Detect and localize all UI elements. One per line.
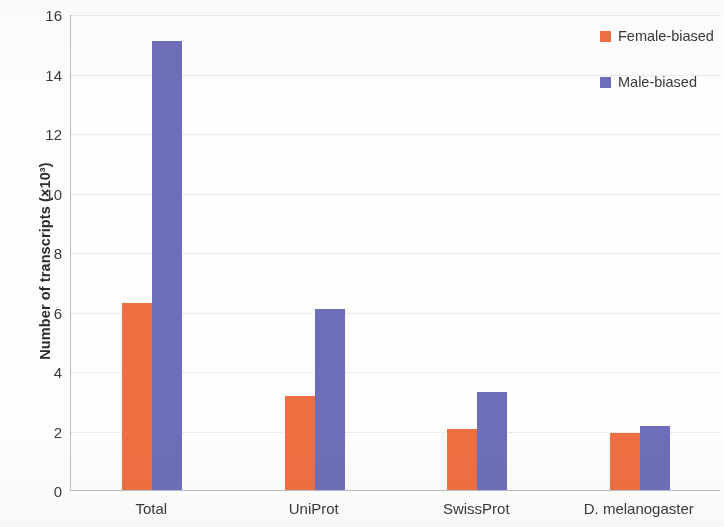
- y-tick-label: 6: [18, 304, 62, 321]
- bar: [315, 309, 345, 490]
- y-tick-label: 14: [18, 66, 62, 83]
- y-tick-label: 16: [18, 7, 62, 24]
- bar: [640, 426, 670, 490]
- legend-item: Male-biased: [600, 74, 724, 90]
- y-tick-label: 10: [18, 185, 62, 202]
- y-tick-label: 4: [18, 364, 62, 381]
- legend-swatch-icon: [600, 31, 611, 42]
- legend-item: Female-biased: [600, 28, 724, 44]
- bar: [610, 433, 640, 490]
- legend-swatch-icon: [600, 77, 611, 88]
- x-axis-tick-labels: TotalUniProtSwissProtD. melanogaster: [70, 496, 720, 527]
- bar: [477, 392, 507, 490]
- y-axis-tick-labels: 0246810121416: [10, 0, 62, 527]
- x-tick-label: D. melanogaster: [584, 500, 694, 517]
- bar: [122, 303, 152, 490]
- legend-label: Male-biased: [618, 74, 697, 90]
- legend-label: Female-biased: [618, 28, 714, 44]
- bar-group: [234, 15, 397, 490]
- chart-legend: Female-biasedMale-biased: [600, 28, 724, 120]
- x-tick-label: SwissProt: [443, 500, 510, 517]
- bar: [152, 41, 182, 490]
- bar-group: [396, 15, 559, 490]
- y-tick-label: 2: [18, 423, 62, 440]
- y-tick-label: 8: [18, 245, 62, 262]
- y-tick-label: 12: [18, 126, 62, 143]
- y-tick-label: 0: [18, 483, 62, 500]
- bar-chart-figure: Number of transcripts (×10³) 02468101214…: [0, 0, 724, 527]
- bar: [285, 396, 315, 490]
- x-tick-label: Total: [135, 500, 167, 517]
- bar: [447, 429, 477, 490]
- x-tick-label: UniProt: [289, 500, 339, 517]
- bar-group: [71, 15, 234, 490]
